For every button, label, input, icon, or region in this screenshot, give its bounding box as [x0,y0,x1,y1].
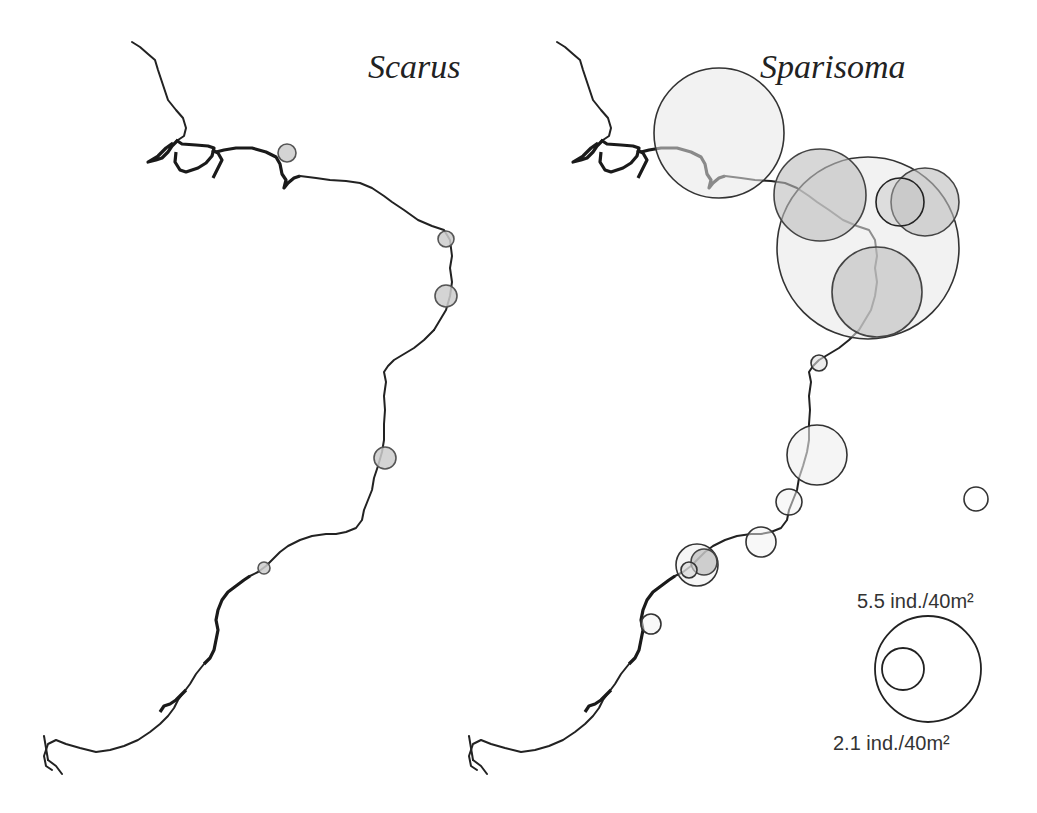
abundance-circle [641,614,661,634]
abundance-circle [278,144,296,162]
abundance-circles [641,68,988,634]
abundance-circle [876,178,924,226]
abundance-circle [681,562,697,578]
abundance-circle [774,149,866,241]
abundance-circle [374,447,396,469]
coastline [44,42,452,774]
legend-small-label: 2.1 ind./40m² [833,732,950,754]
size-legend: 5.5 ind./40m² 2.1 ind./40m² [833,590,981,754]
abundance-circle [964,487,988,511]
abundance-circle [746,527,776,557]
abundance-circle [438,231,454,247]
abundance-circle [832,247,922,337]
abundance-circle [776,489,802,515]
abundance-circles [258,144,457,574]
panel-sparisoma: Sparisoma [469,42,988,774]
panel-scarus: Scarus [44,42,461,774]
panel-title: Sparisoma [760,48,905,85]
abundance-circle [787,425,847,485]
panel-title: Scarus [368,48,461,85]
abundance-circle [258,562,270,574]
legend-large-label: 5.5 ind./40m² [857,590,974,612]
abundance-circle [435,285,457,307]
abundance-circle [811,355,827,371]
legend-small-circle [882,648,924,690]
abundance-circle [654,68,784,198]
map-figure: Scarus Sparisoma 5.5 ind./40m² 2.1 ind./… [0,0,1037,813]
legend-large-circle [875,616,981,722]
